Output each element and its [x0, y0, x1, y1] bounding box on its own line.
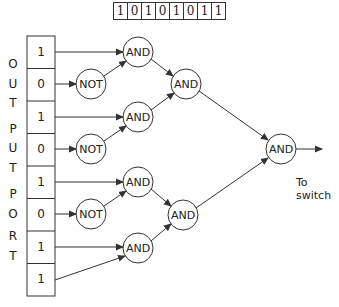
port-cell-value: 0 — [27, 78, 55, 90]
port-cell-value: 0 — [27, 208, 55, 220]
port-label-letter: U — [7, 78, 19, 90]
port-cell-value: 1 — [27, 176, 55, 188]
port-cell-value: 0 — [27, 143, 55, 155]
and-gate-label: AND — [123, 177, 153, 188]
and-gate-label: AND — [123, 243, 153, 254]
and-gate-label: AND — [123, 112, 153, 123]
not-gate-label: NOT — [76, 209, 106, 220]
port-label-letter: T — [7, 250, 19, 262]
port-cell-value: 1 — [27, 241, 55, 253]
and-gate-label: AND — [171, 79, 201, 90]
port-label-letter: R — [7, 230, 19, 242]
port-cell-value: 1 — [27, 111, 55, 123]
and-gate-label: AND — [123, 47, 153, 58]
port-label-letter: T — [7, 97, 19, 109]
port-label-letter: U — [7, 142, 19, 154]
not-gate-label: NOT — [76, 144, 106, 155]
port-cell-value: 1 — [27, 46, 55, 58]
output-note: To switch — [296, 176, 331, 202]
port-label-letter: T — [7, 162, 19, 174]
not-gate-label: NOT — [76, 79, 106, 90]
port-label-letter: O — [7, 208, 19, 220]
output-note-line1: To — [296, 176, 331, 189]
port-label-letter: P — [7, 123, 19, 135]
port-cell-value: 1 — [27, 273, 55, 285]
port-label-letter: P — [7, 188, 19, 200]
and-gate-label: AND — [266, 144, 296, 155]
and-gate-label: AND — [168, 210, 198, 221]
output-note-line2: switch — [296, 189, 331, 202]
port-label-letter: O — [7, 58, 19, 70]
